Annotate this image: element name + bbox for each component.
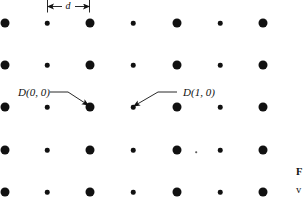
callout-label-d00: D(0, 0) [18,87,50,98]
leader-line-d10 [134,92,177,106]
lattice-figure: d D(0, 0) D(1, 0) F v [0,0,308,204]
leader-line-d00 [50,92,88,105]
callout-label-d10: D(1, 0) [183,87,215,98]
dimension-label-d: d [66,1,71,11]
annotation-overlay [0,0,308,204]
caption-line-1: F [296,166,302,177]
caption-line-2: v [296,184,301,195]
